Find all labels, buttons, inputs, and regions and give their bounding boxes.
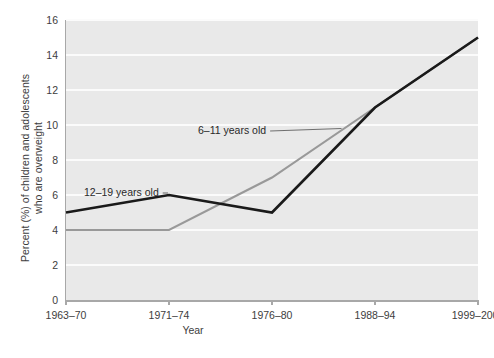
y-axis-title: Percent (%) of children and adolescents … [19, 33, 45, 303]
y-axis-title-line1: Percent (%) of children and adolescents [19, 74, 31, 262]
y-axis-title-line2: who are overweight [32, 33, 45, 303]
series-overlay [0, 0, 494, 358]
chart-figure: 0246810121416 1963–701971–741976–801988–… [0, 0, 494, 358]
figure-caption [2, 348, 302, 357]
annotation-series-6-11: 6–11 years old [198, 124, 266, 136]
annotation-series-12-19: 12–19 years old [84, 186, 159, 198]
x-axis-title: Year [0, 324, 494, 336]
leader-line-6-11 [270, 129, 341, 132]
